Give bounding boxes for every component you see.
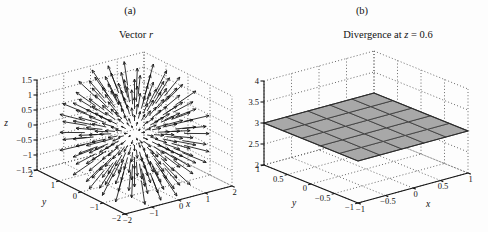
panel-b-title-prefix: Divergence at [343, 29, 404, 40]
panel-b-title-suffix: = 0.6 [408, 29, 432, 40]
quiver-arrow [116, 143, 122, 148]
y-tick-label: 1 [256, 164, 260, 174]
quiver-arrow [133, 79, 136, 97]
x-tick-label: −0.5 [380, 196, 395, 206]
quiver-arrow [129, 135, 131, 137]
quiver-arrow [121, 90, 126, 104]
panel-a-z-axis-label: z [3, 118, 8, 128]
quiver-arrow [145, 128, 150, 130]
panel-a-tag: (a) [124, 5, 136, 17]
quiver-arrow [136, 138, 137, 140]
x-tick-label: 0 [179, 201, 183, 211]
quiver-arrow [167, 137, 183, 140]
quiver-arrow [158, 131, 170, 134]
panel-a-quiver [60, 62, 209, 205]
quiver-arrow [79, 134, 98, 137]
quiver-arrow [132, 126, 133, 128]
quiver-arrow [138, 93, 141, 106]
quiver-arrow [152, 142, 161, 146]
quiver-arrow [147, 118, 153, 123]
quiver-arrow [138, 111, 140, 118]
y-tick-label: −2 [112, 213, 121, 223]
quiver-arrow [108, 148, 117, 156]
quiver-arrow [141, 114, 144, 120]
quiver-arrow [156, 71, 167, 92]
quiver-arrow [116, 112, 122, 119]
x-tick-label: −2 [123, 215, 132, 225]
quiver-arrow [128, 159, 131, 172]
quiver-arrow [130, 90, 133, 104]
quiver-arrow [118, 136, 123, 138]
z-tick-label: −0.5 [17, 135, 32, 145]
quiver-arrow [111, 126, 119, 129]
x-tick-label: −1 [356, 204, 365, 214]
panel-a-y-axis-label: y [41, 197, 47, 207]
x-tick-label: 0.5 [438, 181, 449, 191]
quiver-arrow [133, 169, 136, 187]
quiver-arrow [124, 145, 127, 151]
quiver-arrow [147, 135, 153, 137]
z-tick-label: 1 [28, 90, 32, 100]
quiver-arrow [150, 137, 158, 140]
quiver-arrow [154, 147, 164, 154]
quiver-arrow [133, 157, 136, 169]
z-tick-label: 4 [255, 76, 260, 86]
z-tick-label: 0.5 [21, 105, 32, 115]
quiver-arrow [105, 113, 115, 120]
panel-a-title-prefix: Vector [119, 29, 149, 40]
quiver-arrow [121, 126, 125, 128]
y-tick-label: 0 [73, 191, 77, 201]
panel-b-tag-text: (b) [356, 5, 368, 16]
quiver-arrow [86, 165, 102, 181]
quiver-arrow [127, 123, 130, 126]
quiver-arrow [136, 162, 139, 176]
quiver-arrow [133, 97, 136, 109]
quiver-arrow [108, 136, 117, 139]
panel-a-grid [37, 52, 232, 214]
quiver-arrow [134, 115, 136, 121]
x-tick-label: 2 [232, 187, 236, 197]
quiver-arrow [141, 96, 145, 108]
quiver-arrow [131, 108, 134, 116]
quiver-arrow [163, 175, 177, 196]
panel-b-y-axis-label: y [291, 198, 297, 208]
quiver-arrow [121, 141, 125, 145]
panel-a-tag-text: (a) [124, 5, 136, 16]
quiver-arrow [136, 150, 139, 158]
panel-a-title-symbol: r [149, 29, 153, 40]
z-tick-label: 2.5 [248, 139, 259, 149]
x-tick-label: 1 [468, 174, 472, 184]
quiver-arrow [145, 142, 150, 147]
z-tick-label: 1.5 [21, 75, 32, 85]
quiver-arrow [102, 175, 113, 196]
z-tick-label: −1 [23, 150, 32, 160]
quiver-arrow [76, 110, 96, 118]
panel-b-x-axis-label: x [425, 199, 431, 209]
quiver-arrow [145, 166, 151, 183]
panel-b-surface [264, 93, 468, 161]
x-tick-label: 1 [206, 194, 210, 204]
z-tick-label: 3 [255, 118, 259, 128]
quiver-arrow [136, 122, 137, 126]
quiver-arrow [138, 129, 140, 131]
quiver-arrow [136, 104, 139, 114]
quiver-arrow [102, 123, 113, 127]
panel-a-title: Vector r [119, 29, 153, 41]
x-tick-label: −1 [150, 208, 159, 218]
panel-a-x-axis-label: x [185, 199, 191, 209]
panel-a-tick-labels: −1.5−1−0.500.511.5−2−1012−2−1012 [17, 75, 237, 225]
x-tick-label: 0 [413, 189, 417, 199]
y-tick-label: 0 [303, 183, 307, 193]
quiver-arrow [111, 141, 119, 145]
quiver-arrow [124, 133, 127, 134]
quiver-arrow [152, 110, 161, 118]
quiver-arrow [138, 75, 141, 94]
quiver-arrow [152, 127, 161, 130]
y-tick-label: 0.5 [273, 174, 284, 184]
panel-b-title: Divergence at z = 0.6 [343, 29, 432, 41]
y-tick-label: −0.5 [315, 193, 330, 203]
figure: −1.5−1−0.500.511.5−2−1012−2−1012xyz22.53… [0, 0, 488, 232]
quiver-arrow [134, 145, 136, 151]
quiver-arrow [105, 95, 115, 108]
quiver-arrow [156, 139, 167, 143]
